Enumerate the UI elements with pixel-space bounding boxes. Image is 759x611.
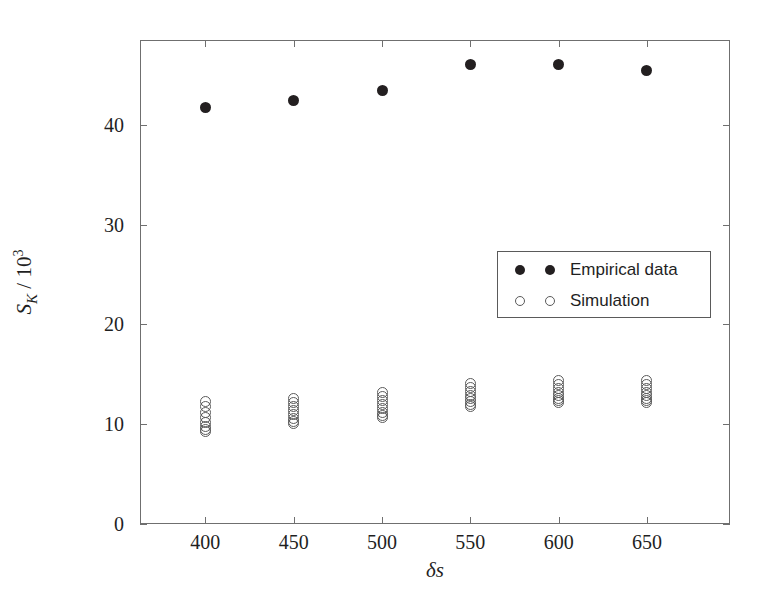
- x-tick-label: 600: [544, 531, 574, 554]
- x-tick-label: 400: [190, 531, 220, 554]
- data-point-simulation: [200, 426, 211, 437]
- x-tick-mark: [294, 517, 295, 524]
- open-circle-icon: [515, 296, 525, 306]
- y-tick-label: 0: [0, 513, 124, 536]
- legend-marker-group-empirical: [498, 253, 570, 286]
- x-tick-label: 650: [632, 531, 662, 554]
- y-tick-mark-right: [723, 225, 730, 226]
- y-tick-mark-right: [723, 125, 730, 126]
- y-tick-label: 20: [0, 313, 124, 336]
- y-tick-label: 10: [0, 413, 124, 436]
- x-tick-label: 450: [279, 531, 309, 554]
- filled-circle-icon: [545, 265, 555, 275]
- y-tick-mark-right: [723, 324, 730, 325]
- x-tick-mark-top: [382, 40, 383, 47]
- x-tick-mark-top: [205, 40, 206, 47]
- legend-marker-group-simulation: [498, 284, 570, 317]
- data-point-simulation: [465, 401, 476, 412]
- x-tick-mark-top: [294, 40, 295, 47]
- x-tick-mark-top: [470, 40, 471, 47]
- legend: Empirical data Simulation: [497, 251, 711, 318]
- scatter-plot-figure: 400450500550600650 010203040 δs SK / 103…: [0, 0, 759, 611]
- x-tick-mark: [470, 517, 471, 524]
- x-tick-mark-top: [647, 40, 648, 47]
- data-point-simulation: [553, 397, 564, 408]
- data-point-empirical: [377, 85, 388, 96]
- legend-label-empirical-data: Empirical data: [570, 260, 678, 280]
- x-tick-label: 500: [367, 531, 397, 554]
- data-point-simulation: [288, 418, 299, 429]
- data-point-simulation: [377, 412, 388, 423]
- y-tick-mark-right: [723, 524, 730, 525]
- y-tick-label: 40: [0, 113, 124, 136]
- y-axis-label-symbol: S: [12, 304, 36, 315]
- legend-entry-empirical-data: Empirical data: [498, 253, 710, 286]
- x-tick-mark: [559, 517, 560, 524]
- x-axis-label: δs: [426, 558, 444, 583]
- legend-entry-simulation: Simulation: [498, 284, 710, 317]
- y-tick-mark: [140, 225, 147, 226]
- x-tick-mark: [205, 517, 206, 524]
- y-tick-mark: [140, 125, 147, 126]
- y-axis-label-subscript: K: [24, 294, 40, 304]
- filled-circle-icon: [515, 265, 525, 275]
- y-tick-mark-right: [723, 424, 730, 425]
- y-tick-mark: [140, 524, 147, 525]
- x-tick-mark: [382, 517, 383, 524]
- y-tick-mark: [140, 324, 147, 325]
- x-tick-label: 550: [455, 531, 485, 554]
- x-tick-mark: [647, 517, 648, 524]
- y-axis-label: SK / 103: [11, 250, 40, 315]
- y-axis-label-divider: / 10: [12, 257, 36, 294]
- y-axis-label-exponent: 3: [11, 250, 26, 257]
- y-tick-mark: [140, 424, 147, 425]
- legend-label-simulation: Simulation: [570, 291, 649, 311]
- y-tick-label: 30: [0, 213, 124, 236]
- x-tick-mark-top: [559, 40, 560, 47]
- open-circle-icon: [545, 296, 555, 306]
